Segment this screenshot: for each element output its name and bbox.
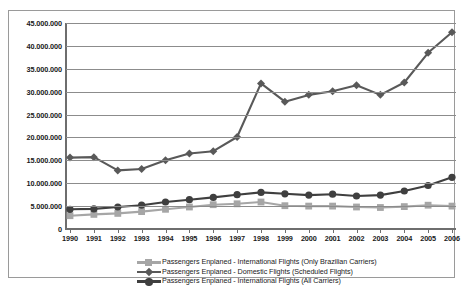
- x-tick: [237, 229, 238, 233]
- data-point-marker: [114, 210, 121, 217]
- chart-frame: 05.000.00010.000.00015.000.00020.000.000…: [8, 10, 455, 278]
- data-point-marker: [162, 198, 169, 205]
- data-point-marker: [353, 192, 360, 199]
- series-domestic: [66, 28, 456, 174]
- y-tick-label: 45.000.000: [26, 19, 62, 28]
- legend-label: Passengers Enplaned - International Flig…: [162, 257, 377, 266]
- x-tick: [70, 229, 71, 233]
- y-tick-label: 5.000.000: [30, 202, 62, 211]
- gridline-y: [66, 160, 456, 161]
- x-tick: [166, 229, 167, 233]
- x-tick: [357, 229, 358, 233]
- data-point-marker: [138, 165, 146, 173]
- legend-key-circle-icon: [137, 276, 161, 285]
- plot-area: [66, 23, 456, 229]
- x-tick: [118, 229, 119, 233]
- gridline-y: [66, 92, 456, 93]
- data-point-marker: [257, 189, 264, 196]
- data-point-marker: [138, 208, 145, 215]
- x-tick: [189, 229, 190, 233]
- y-axis-labels: 05.000.00010.000.00015.000.00020.000.000…: [9, 11, 62, 241]
- y-tick-label: 35.000.000: [26, 65, 62, 74]
- gridline-y: [66, 115, 456, 116]
- legend-label: Passengers Enplaned - International Flig…: [162, 276, 341, 285]
- data-point-marker: [377, 192, 384, 199]
- legend-label: Passengers Enplaned - Domestic Flights (…: [162, 267, 353, 276]
- gridline-y: [66, 23, 456, 24]
- x-tick: [261, 229, 262, 233]
- gridline-y: [66, 69, 456, 70]
- y-tick-label: 20.000.000: [26, 133, 62, 142]
- x-tick: [404, 229, 405, 233]
- y-tick-label: 25.000.000: [26, 111, 62, 120]
- data-point-marker: [185, 149, 193, 157]
- legend-item-domestic[interactable]: Passengers Enplaned - Domestic Flights (…: [137, 267, 437, 277]
- x-tick-label: 2006: [435, 234, 463, 243]
- series-line: [70, 32, 452, 170]
- x-tick: [428, 229, 429, 233]
- gridline-y: [66, 46, 456, 47]
- legend-item-intl-all[interactable]: Passengers Enplaned - International Flig…: [137, 276, 437, 286]
- data-point-marker: [258, 199, 265, 206]
- gridline-y: [66, 137, 456, 138]
- y-tick-label: 15.000.000: [26, 156, 62, 165]
- data-point-marker: [329, 191, 336, 198]
- x-tick: [333, 229, 334, 233]
- x-tick: [309, 229, 310, 233]
- gridline-y: [66, 206, 456, 207]
- x-tick: [285, 229, 286, 233]
- x-tick: [142, 229, 143, 233]
- y-tick-label: 0: [58, 225, 62, 234]
- y-tick-label: 10.000.000: [26, 179, 62, 188]
- series-layer: [66, 23, 457, 235]
- data-point-marker: [353, 81, 361, 89]
- data-point-marker: [210, 194, 217, 201]
- legend-key-diamond-icon: [137, 267, 161, 276]
- x-tick: [380, 229, 381, 233]
- x-axis-labels: 1990199119921993199419951996199719981999…: [66, 234, 461, 248]
- data-point-marker: [448, 174, 455, 181]
- data-point-marker: [186, 196, 193, 203]
- gridline-y: [66, 183, 456, 184]
- legend-item-intl-brazilian[interactable]: Passengers Enplaned - International Flig…: [137, 257, 437, 267]
- data-point-marker: [234, 191, 241, 198]
- series-intl-brazilian: [67, 199, 456, 220]
- data-point-marker: [401, 187, 408, 194]
- data-point-marker: [281, 190, 288, 197]
- x-tick: [94, 229, 95, 233]
- y-tick-label: 30.000.000: [26, 88, 62, 97]
- data-point-marker: [305, 192, 312, 199]
- data-point-marker: [67, 212, 74, 219]
- chart-legend: Passengers Enplaned - International Flig…: [137, 257, 437, 286]
- data-point-marker: [114, 166, 122, 174]
- legend-key-square-icon: [137, 257, 161, 266]
- x-tick: [452, 229, 453, 233]
- y-tick-label: 40.000.000: [26, 42, 62, 51]
- x-tick: [213, 229, 214, 233]
